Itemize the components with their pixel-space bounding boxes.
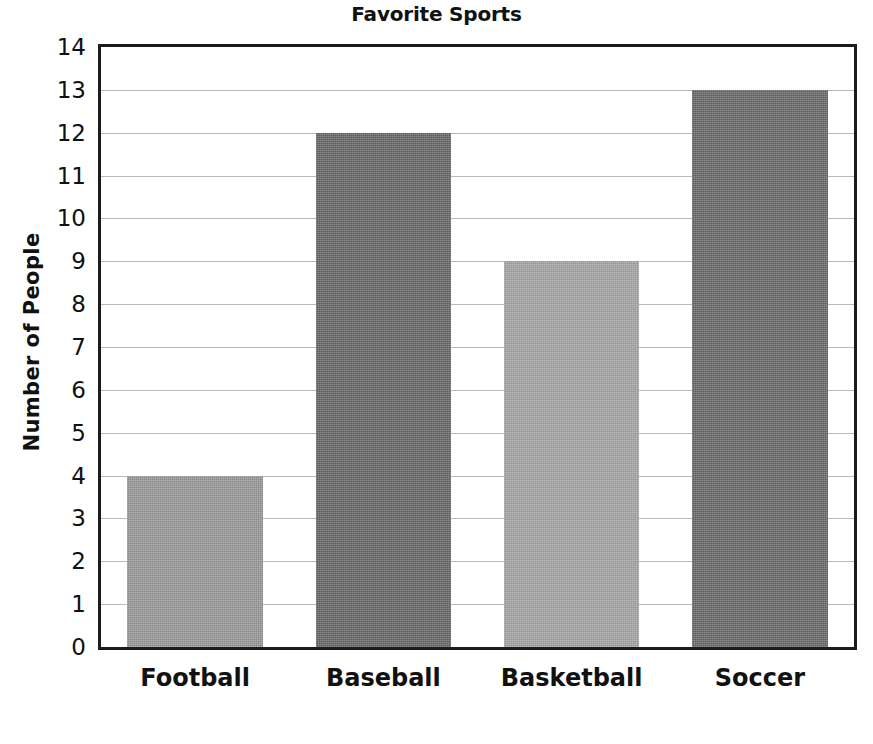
bar-series [101, 47, 854, 647]
y-axis-tick-label: 11 [10, 163, 86, 189]
bar [127, 476, 263, 647]
x-axis-tick-label: Football [140, 664, 250, 692]
y-axis-tick-label: 10 [10, 205, 86, 231]
y-axis-tick-label: 5 [10, 420, 86, 446]
x-axis-tick-label: Baseball [326, 664, 441, 692]
y-axis-tick-label: 6 [10, 377, 86, 403]
y-axis-tick-label: 13 [10, 77, 86, 103]
y-axis-tick-label: 0 [10, 634, 86, 660]
x-axis-tick-label: Soccer [715, 664, 805, 692]
y-axis-tick-label: 7 [10, 334, 86, 360]
y-axis-tick-label: 12 [10, 120, 86, 146]
y-axis-tick-label: 3 [10, 505, 86, 531]
x-axis-tick-labels: FootballBaseballBasketballSoccer [0, 664, 873, 714]
x-axis-tick-label: Basketball [501, 664, 643, 692]
plot-area [98, 44, 857, 650]
y-axis-tick-label: 8 [10, 291, 86, 317]
y-axis-tick-label: 14 [10, 34, 86, 60]
y-axis-tick-label: 2 [10, 548, 86, 574]
y-axis-tick-label: 1 [10, 591, 86, 617]
bar [316, 133, 452, 647]
y-axis-tick-label: 4 [10, 463, 86, 489]
bar-chart-figure: Favorite Sports Number of People 1413121… [0, 0, 873, 744]
bar [504, 261, 640, 647]
y-axis-tick-label: 9 [10, 248, 86, 274]
bar [692, 90, 828, 647]
